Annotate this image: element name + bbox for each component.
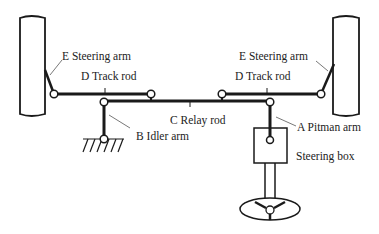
- label-steering-box: Steering box: [296, 150, 355, 163]
- label-track-rod-left: D Track rod: [81, 70, 137, 82]
- label-track-rod-right: D Track rod: [235, 70, 291, 82]
- steering-column: [265, 163, 275, 201]
- right-wheel: [333, 16, 359, 116]
- label-idler-arm: B Idler arm: [136, 130, 189, 142]
- label-steering-arm-right: E Steering arm: [239, 50, 308, 63]
- steering-arm-right: [321, 64, 334, 94]
- pitman-pivot: [267, 137, 274, 144]
- steering-linkage-diagram: E Steering arm D Track rod E Steering ar…: [0, 0, 379, 234]
- left-wheel: [20, 16, 45, 116]
- steering-wheel: [240, 198, 300, 220]
- label-relay-rod: C Relay rod: [170, 114, 226, 127]
- label-steering-arm-left: E Steering arm: [62, 50, 131, 63]
- label-pitman-arm: A Pitman arm: [297, 121, 361, 133]
